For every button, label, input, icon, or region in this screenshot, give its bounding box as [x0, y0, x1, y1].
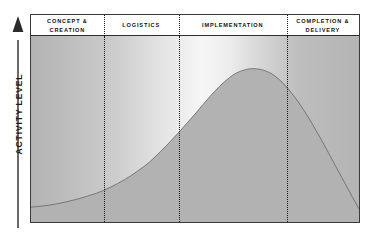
phase-divider-header-3: [287, 15, 288, 36]
phase-divider-3: [287, 36, 288, 222]
chart-frame: CONCEPT & CREATION LOGISTICS IMPLEMENTAT…: [30, 14, 360, 223]
y-axis-label: ACTIVITY LEVEL: [14, 49, 24, 179]
y-axis: ACTIVITY LEVEL: [8, 14, 28, 229]
phase-label-line2: CREATION: [50, 27, 86, 33]
phase-label-completion-delivery: COMPLETION & DELIVERY: [287, 15, 359, 36]
phase-divider-1: [104, 36, 105, 222]
phase-label-line1: LOGISTICS: [122, 21, 160, 29]
phase-label-line1: CONCEPT &: [47, 18, 88, 24]
phase-label-concept-creation: CONCEPT & CREATION: [31, 15, 104, 36]
phase-divider-header-1: [104, 15, 105, 36]
phase-label-line1: IMPLEMENTATION: [202, 21, 263, 29]
activity-level-phase-chart: ACTIVITY LEVEL CONCEPT & CREATION LOGIST…: [0, 0, 372, 237]
phase-header-band: CONCEPT & CREATION LOGISTICS IMPLEMENTAT…: [31, 15, 359, 36]
activity-curve-area: [31, 69, 359, 222]
plot-area: [31, 36, 359, 222]
phase-label-line2: DELIVERY: [306, 27, 341, 33]
activity-curve: [31, 36, 359, 222]
phase-label-logistics: LOGISTICS: [104, 15, 179, 36]
phase-divider-2: [179, 36, 180, 222]
phase-label-implementation: IMPLEMENTATION: [179, 15, 287, 36]
phase-label-line1: COMPLETION &: [296, 18, 349, 24]
phase-divider-header-2: [179, 15, 180, 36]
